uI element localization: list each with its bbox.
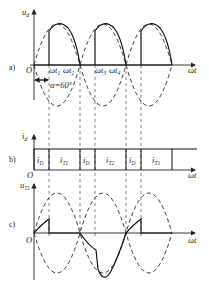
panel-a-origin: O xyxy=(26,65,32,75)
panel-c-x-label: ωt xyxy=(188,235,197,245)
segment-label-iD-3: iD xyxy=(129,155,135,166)
time-label-t4: ωt4 xyxy=(109,65,120,76)
alpha-label: α=60° xyxy=(50,80,73,90)
panel-a-y-label: ud xyxy=(22,7,29,18)
panel-c: uT1 c) O ωt xyxy=(9,180,197,280)
panel-b: id b) O ωt iD iT1 iD iT2 iD iT1 xyxy=(9,131,197,180)
segment-label-iD-1: iD xyxy=(37,155,43,166)
segment-label-iT1-1: iT1 xyxy=(60,155,68,166)
panel-b-x-label: ωt xyxy=(188,170,197,180)
panel-a-tag: a) xyxy=(9,63,16,72)
panel-a-output-wave-2 xyxy=(95,24,126,65)
waveform-diagram: ud a) O ωt ωt1 ωt2 ωt3 ωt4 α=60° id b) xyxy=(0,0,209,287)
panel-c-thyristor-voltage xyxy=(34,219,172,277)
panel-b-origin: O xyxy=(27,170,33,180)
panel-c-y-label: uT1 xyxy=(20,180,30,191)
time-label-t3: ωt3 xyxy=(95,65,106,76)
panel-c-dashed-positive-wave xyxy=(34,193,172,233)
panel-c-dashed-negative-wave xyxy=(34,233,172,273)
panel-a: ud a) O ωt ωt1 ωt2 ωt3 ωt4 α=60° xyxy=(9,7,197,106)
panel-c-origin: O xyxy=(26,235,32,245)
panel-a-output-wave-1 xyxy=(49,24,80,65)
segment-label-iT2: iT2 xyxy=(106,155,114,166)
panel-b-y-label: id xyxy=(22,131,27,142)
panel-a-dashed-positive-wave xyxy=(34,24,172,65)
panel-c-tag: c) xyxy=(9,220,16,229)
panel-a-output-wave-3 xyxy=(141,24,172,65)
panel-a-x-label: ωt xyxy=(188,65,197,75)
panel-b-tag: b) xyxy=(9,155,16,164)
segment-label-iD-2: iD xyxy=(83,155,89,166)
segment-label-iT1-2: iT1 xyxy=(152,155,160,166)
time-label-t1: ωt1 xyxy=(49,65,60,76)
time-label-t2: ωt2 xyxy=(63,65,74,76)
